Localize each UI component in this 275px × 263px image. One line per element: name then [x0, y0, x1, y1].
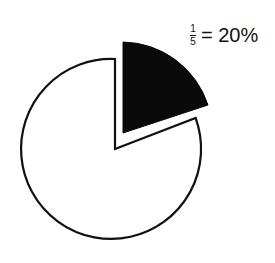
percentage-text: = 20%: [201, 24, 258, 47]
slice-annotation: 1 5 = 20%: [190, 24, 258, 47]
fraction: 1 5: [190, 24, 196, 47]
fraction-numerator: 1: [190, 24, 196, 34]
fraction-denominator: 5: [190, 37, 196, 47]
